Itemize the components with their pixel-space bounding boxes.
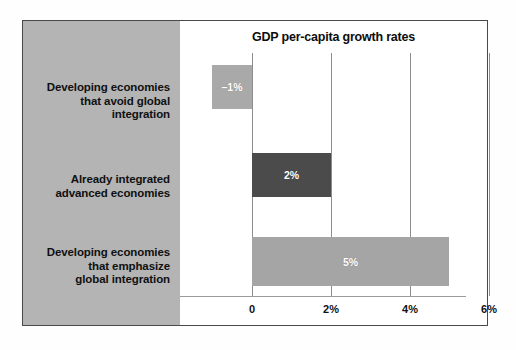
x-axis-line [180,296,466,297]
category-label-1: Already integrated advanced economies [24,173,170,200]
chart-title: GDP per-capita growth rates [180,30,487,44]
plot-area: GDP per-capita growth rates –1% 2% 5% 0 … [180,21,487,325]
chart-frame: Developing economies that avoid global i… [22,20,488,326]
category-label-1-line-1: advanced economies [24,187,170,201]
category-label-panel: Developing economies that avoid global i… [23,21,180,325]
x-tick-label-2: 4% [390,303,430,315]
bar-0: –1% [212,65,252,109]
category-label-1-line-0: Already integrated [24,173,170,187]
category-label-2: Developing economies that emphasize glob… [24,246,170,287]
x-tick-label-0: 0 [232,303,272,315]
bar-value-1: 2% [252,169,331,181]
bar-1: 2% [252,153,331,197]
x-tick-label-3: 6% [469,303,509,315]
chart-image: Developing economies that avoid global i… [0,0,516,350]
bar-value-0: –1% [212,81,252,93]
x-tick-label-1: 2% [311,303,351,315]
bar-value-2: 5% [252,256,449,268]
category-label-0: Developing economies that avoid global i… [24,81,170,122]
bar-2: 5% [252,237,449,286]
category-label-2-line-2: global integration [24,273,170,287]
gridline-3 [489,53,490,296]
category-label-2-line-1: that emphasize [24,260,170,274]
category-label-0-line-0: Developing economies [24,81,170,95]
category-label-0-line-1: that avoid global [24,95,170,109]
category-label-2-line-0: Developing economies [24,246,170,260]
category-label-0-line-2: integration [24,108,170,122]
